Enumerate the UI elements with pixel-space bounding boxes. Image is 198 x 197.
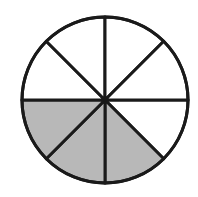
pie-svg: [0, 0, 198, 197]
fraction-circle-diagram: [0, 0, 198, 197]
